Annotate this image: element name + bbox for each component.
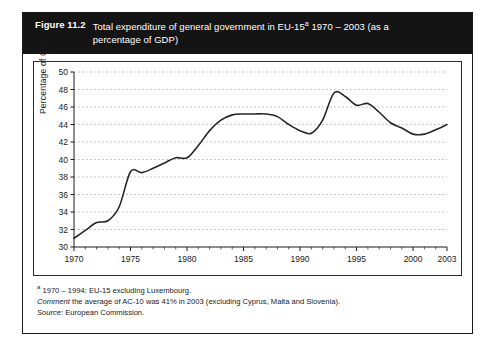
x-tick-label: 1985	[234, 254, 253, 264]
comment-label: Comment	[37, 297, 70, 306]
x-tick-label: 1975	[121, 254, 140, 264]
figure-notes: a 1970 – 1994: EU-15 excluding Luxembour…	[37, 283, 460, 318]
y-tick-label: 30	[59, 242, 69, 252]
figure-title: Total expenditure of general government …	[93, 19, 389, 47]
comment-note: Comment the average of AC-10 was 41% in …	[37, 296, 460, 307]
x-tick-label: 1980	[178, 254, 197, 264]
source-note: Source: European Commission.	[37, 307, 460, 318]
y-tick-label: 42	[59, 137, 69, 147]
figure-title-line2: percentage of GDP)	[93, 34, 178, 45]
figure-container: Figure 11.2 Total expenditure of general…	[22, 12, 473, 334]
y-tick-label: 44	[59, 120, 69, 130]
y-tick-label: 38	[59, 172, 69, 182]
x-tick-label: 1990	[291, 254, 310, 264]
data-series-line	[74, 92, 447, 239]
footnote-a: a 1970 – 1994: EU-15 excluding Luxembour…	[37, 283, 460, 296]
comment-text: the average of AC-10 was 41% in 2003 (ex…	[70, 297, 340, 306]
figure-number: Figure 11.2	[35, 19, 86, 32]
footnote-text: 1970 – 1994: EU-15 excluding Luxembourg.	[40, 286, 191, 295]
chart-plot-frame: Percentage of GDP 3032343638404244464850…	[33, 61, 462, 276]
y-tick-label: 40	[59, 155, 69, 165]
x-tick-label: 1995	[347, 254, 366, 264]
y-tick-label: 32	[59, 225, 69, 235]
x-tick-label: 1970	[65, 254, 84, 264]
source-label: Source:	[37, 308, 63, 317]
figure-header: Figure 11.2 Total expenditure of general…	[23, 13, 472, 54]
y-tick-label: 48	[59, 85, 69, 95]
source-text: European Commission.	[63, 308, 144, 317]
line-chart: 3032343638404244464850197019751980198519…	[34, 62, 461, 275]
figure-title-part2: 1970 – 2003 (as a	[309, 21, 389, 32]
y-tick-label: 36	[59, 190, 69, 200]
x-tick-label: 2000	[404, 254, 423, 264]
figure-title-part1: Total expenditure of general government …	[93, 21, 305, 32]
y-tick-label: 34	[59, 207, 69, 217]
x-tick-label: 2003	[438, 254, 457, 264]
y-tick-label: 46	[59, 102, 69, 112]
y-tick-label: 50	[59, 67, 69, 77]
